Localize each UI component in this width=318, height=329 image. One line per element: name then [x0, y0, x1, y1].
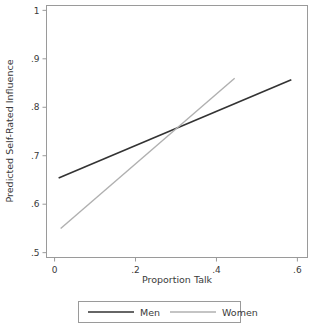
line-chart-svg: .5.6.7.8.91 0.2.4.6 Proportion Talk Pred…	[0, 0, 318, 329]
y-tick-label: .8	[31, 102, 40, 112]
data-series-group	[59, 78, 292, 228]
y-tick-label: .7	[31, 151, 40, 161]
y-tick-label: 1	[34, 6, 40, 16]
x-tick-label: .4	[212, 265, 221, 275]
y-axis-ticks	[43, 10, 47, 252]
legend-label-women: Women	[222, 307, 258, 318]
plot-frame	[47, 6, 308, 258]
x-tick-label: .6	[293, 265, 302, 275]
y-tick-label: .5	[31, 248, 40, 258]
x-axis-ticks	[55, 258, 298, 262]
y-tick-label: .9	[31, 54, 40, 64]
y-axis-tick-labels: .5.6.7.8.91	[31, 6, 40, 258]
x-tick-label: 0	[52, 265, 58, 275]
y-axis-title: Predicted Self-Rated Influence	[4, 59, 15, 202]
x-tick-label: .2	[131, 265, 140, 275]
chart-figure: .5.6.7.8.91 0.2.4.6 Proportion Talk Pred…	[0, 0, 318, 329]
x-axis-tick-labels: 0.2.4.6	[52, 265, 302, 275]
chart-legend: Men Women	[79, 302, 258, 323]
y-tick-label: .6	[31, 199, 40, 209]
series-line-women	[61, 78, 235, 228]
legend-label-men: Men	[140, 307, 160, 318]
x-axis-title: Proportion Talk	[142, 274, 213, 285]
